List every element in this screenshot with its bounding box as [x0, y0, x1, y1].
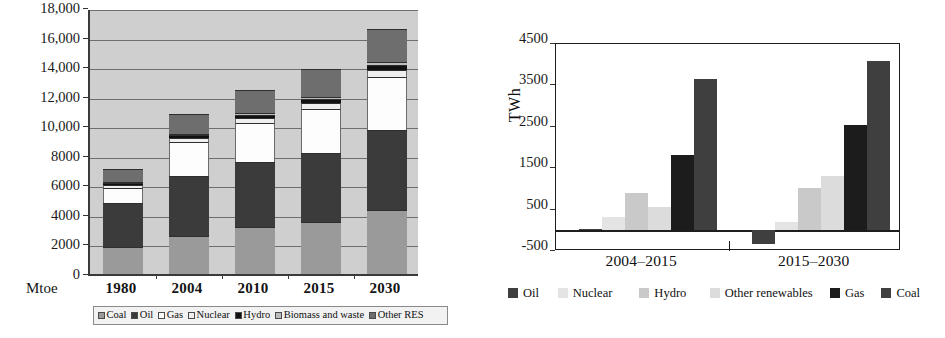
left-chart-x-tick-label: 1980: [86, 280, 156, 297]
left-chart-x-tick-label: 2030: [350, 280, 420, 297]
left-chart-legend-item: Coal: [98, 310, 126, 321]
right-chart-legend-label: Nuclear: [573, 287, 613, 300]
left-chart-legend-label: Gas: [167, 310, 183, 321]
left-chart-y-tick-mark: [83, 215, 88, 216]
left-chart-bar-segment-gas: [169, 142, 209, 175]
right-chart-y-tick-label: -500: [521, 238, 548, 253]
left-chart-y-tick-mark: [83, 126, 88, 127]
left-chart-plot-area: [88, 10, 418, 276]
left-chart-y-tick-label: 12,000: [40, 89, 80, 104]
right-chart-y-tick-mark: [550, 209, 555, 210]
left-chart-bar-segment-other-res: [103, 169, 143, 182]
left-chart-bar-segment-gas: [103, 188, 143, 204]
right-chart-legend-item: Nuclear: [558, 287, 640, 300]
left-chart-y-tick-label: 8000: [51, 149, 80, 164]
right-chart-y-axis-title: TWh: [506, 88, 524, 122]
right-chart-bar-nuclear: [602, 217, 625, 230]
right-chart-legend-label: Gas: [845, 287, 864, 300]
right-chart-legend-item: Oil: [508, 287, 558, 300]
grouped-bar-chart-twh: -5005001500250035004500 TWh 2004–2015201…: [480, 0, 945, 338]
left-chart-y-tick-label: 10,000: [40, 119, 80, 134]
right-chart-y-tick-label: 1500: [519, 155, 548, 170]
left-chart-bar-segment-coal: [367, 210, 407, 274]
left-chart-x-tick-mark: [288, 274, 289, 279]
left-chart-y-tick-mark: [83, 8, 88, 9]
left-chart-bar-segment-other-res: [169, 114, 209, 134]
left-chart-bar-segment-coal: [301, 222, 341, 274]
left-chart-y-tick-mark: [83, 67, 88, 68]
left-chart-y-axis-labels: 0200040006000800010,00012,00014,00016,00…: [18, 8, 80, 278]
left-chart-x-tick-mark: [222, 274, 223, 279]
left-chart-bar-segment-coal: [169, 236, 209, 274]
left-chart-stacked-bar: [301, 69, 341, 274]
right-chart-zero-line: [556, 230, 899, 232]
right-chart-legend-item: Gas: [830, 287, 882, 300]
left-chart-stacked-bar: [367, 29, 407, 274]
legend-swatch-icon: [508, 288, 518, 298]
right-chart-x-tick-mark: [729, 241, 730, 251]
left-chart-bar-segment-nuclear: [367, 70, 407, 77]
left-chart-bar-segment-gas: [235, 123, 275, 162]
left-chart-x-tick-label: 2010: [218, 280, 288, 297]
right-chart-y-tick-mark: [550, 84, 555, 85]
legend-swatch-icon: [830, 288, 840, 298]
left-chart-x-tick-mark: [156, 274, 157, 279]
figure-container: 0200040006000800010,00012,00014,00016,00…: [0, 0, 945, 338]
right-chart-y-tick-mark: [550, 250, 555, 251]
left-chart-y-tick-label: 18,000: [40, 1, 80, 16]
left-chart-y-tick-label: 6000: [51, 178, 80, 193]
left-chart-y-tick-label: 16,000: [40, 30, 80, 45]
legend-swatch-icon: [881, 288, 891, 298]
right-chart-bar-coal: [867, 61, 890, 231]
left-chart-legend-label: Biomass and waste: [284, 310, 365, 321]
right-chart-bar-hydro: [625, 193, 648, 230]
right-chart-legend-item: Other renewables: [710, 287, 830, 300]
legend-swatch-icon: [98, 312, 105, 319]
right-chart-y-tick-label: 3500: [519, 72, 548, 87]
right-chart-legend: OilNuclearHydroOther renewablesGasCoal: [508, 284, 933, 302]
legend-swatch-icon: [369, 312, 376, 319]
right-chart-x-tick-label: 2004–2015: [561, 252, 721, 270]
left-chart-bar-segment-oil: [169, 176, 209, 236]
legend-swatch-icon: [235, 312, 242, 319]
left-chart-legend-item: Oil: [131, 310, 153, 321]
left-chart-legend-item: Hydro: [235, 310, 270, 321]
right-chart-bar-coal: [694, 79, 717, 230]
left-chart-x-tick-label: 2004: [152, 280, 222, 297]
left-chart-y-tick-mark: [83, 244, 88, 245]
right-chart-y-tick-label: 500: [526, 196, 548, 211]
stacked-bar-chart-mtoe: 0200040006000800010,00012,00014,00016,00…: [0, 0, 480, 338]
left-chart-stacked-bar: [169, 114, 209, 274]
right-chart-y-axis-labels: -5005001500250035004500: [488, 38, 548, 253]
left-chart-bar-segment-coal: [235, 227, 275, 274]
right-chart-legend-label: Other renewables: [725, 287, 813, 300]
right-chart-bar-hydro: [798, 188, 821, 230]
left-chart-y-tick-label: 4000: [51, 208, 80, 223]
left-chart-bar-segment-other-res: [235, 90, 275, 113]
left-chart-bar-segment-oil: [103, 203, 143, 247]
right-chart-legend-item: Coal: [881, 287, 933, 300]
left-chart-x-tick-mark: [354, 274, 355, 279]
left-chart-x-axis-labels: 19802004201020152030: [88, 280, 418, 302]
left-chart-legend-item: Gas: [158, 310, 183, 321]
left-chart-bar-segment-oil: [301, 153, 341, 222]
legend-swatch-icon: [131, 312, 138, 319]
left-chart-legend-item: Biomass and waste: [275, 310, 364, 321]
right-chart-bar-other-renewables: [821, 176, 844, 230]
right-chart-bar-gas: [671, 155, 694, 231]
left-chart-gridline: [90, 10, 418, 11]
left-chart-bar-segment-gas: [301, 109, 341, 153]
left-chart-y-tick-mark: [83, 38, 88, 39]
left-chart-unit-label: Mtoe: [26, 280, 58, 297]
left-chart-y-tick-mark: [83, 156, 88, 157]
left-chart-bar-segment-oil: [367, 130, 407, 210]
right-chart-legend-item: Hydro: [639, 287, 709, 300]
left-chart-y-tick-label: 14,000: [40, 60, 80, 75]
left-chart-bar-segment-coal: [103, 247, 143, 274]
left-chart-legend-label: Hydro: [243, 310, 270, 321]
legend-swatch-icon: [275, 312, 282, 319]
right-chart-legend-label: Hydro: [654, 287, 686, 300]
right-chart-y-tick-mark: [550, 126, 555, 127]
left-chart-bar-segment-other-res: [367, 29, 407, 62]
left-chart-stacked-bar: [235, 90, 275, 274]
